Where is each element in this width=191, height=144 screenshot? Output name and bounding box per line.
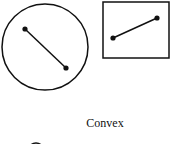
segment-endpoint bbox=[110, 35, 115, 40]
segment-endpoint bbox=[154, 15, 159, 20]
segment-endpoint bbox=[63, 65, 68, 70]
rectangle-segment bbox=[113, 18, 157, 38]
partial-circle-bottom bbox=[28, 143, 44, 144]
segment-endpoint bbox=[22, 26, 27, 31]
circle-segment bbox=[25, 29, 66, 68]
convex-rectangle bbox=[103, 2, 169, 58]
convex-caption: Convex bbox=[0, 116, 191, 131]
